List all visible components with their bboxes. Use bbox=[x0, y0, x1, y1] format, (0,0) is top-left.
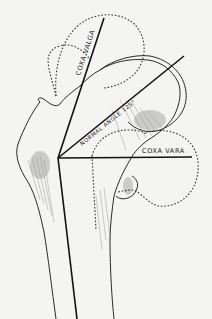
femur-angle-diagram: COXA VALGA NORMAL ANGLE 125° COXA VARA bbox=[0, 0, 212, 319]
coxa-vara-line bbox=[58, 157, 192, 158]
coxa-vara-label: COXA VARA bbox=[142, 147, 185, 155]
